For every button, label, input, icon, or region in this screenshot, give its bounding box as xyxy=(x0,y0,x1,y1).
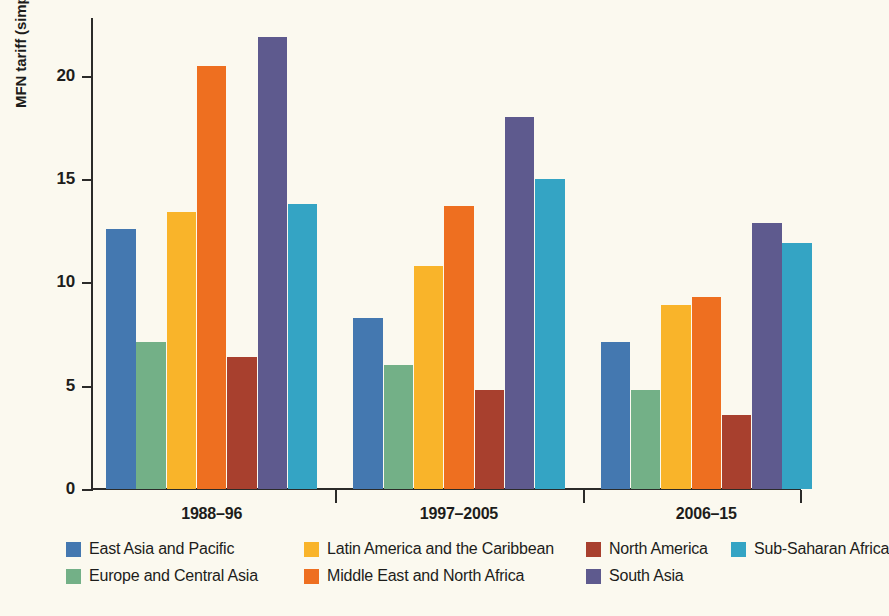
bar xyxy=(444,206,474,489)
x-axis-end-tick xyxy=(800,490,802,503)
legend-label: East Asia and Pacific xyxy=(89,541,234,557)
y-axis-tick: 15 xyxy=(82,179,93,181)
legend-item[interactable]: Latin America and the Caribbean xyxy=(304,541,554,557)
bar xyxy=(475,390,505,489)
bar xyxy=(505,117,535,489)
chart-legend: East Asia and PacificEurope and Central … xyxy=(66,541,811,599)
legend-label: Latin America and the Caribbean xyxy=(327,541,554,557)
legend-item[interactable]: North America xyxy=(586,541,708,557)
plot-area: 05101520 xyxy=(93,18,800,489)
y-axis-tick-label: 0 xyxy=(66,479,75,499)
bar xyxy=(601,342,631,489)
bars-layer xyxy=(93,18,800,489)
bar xyxy=(782,243,812,489)
bar xyxy=(535,179,565,489)
legend-label: South Asia xyxy=(609,568,684,584)
legend-item[interactable]: East Asia and Pacific xyxy=(66,541,234,557)
legend-label: Europe and Central Asia xyxy=(89,568,258,584)
legend-item[interactable]: South Asia xyxy=(586,568,684,584)
legend-swatch-icon xyxy=(304,542,319,557)
x-axis-separator-tick xyxy=(583,490,585,503)
bar xyxy=(692,297,722,489)
y-axis-tick-label: 5 xyxy=(66,376,75,396)
legend-item[interactable]: Middle East and North Africa xyxy=(304,568,524,584)
legend-swatch-icon xyxy=(586,569,601,584)
bar xyxy=(197,66,227,489)
legend-item[interactable]: Europe and Central Asia xyxy=(66,568,258,584)
bar xyxy=(227,357,257,489)
bar xyxy=(722,415,752,489)
y-axis-tick-label: 15 xyxy=(56,169,75,189)
bar xyxy=(106,229,136,489)
legend-swatch-icon xyxy=(731,542,746,557)
x-axis-group-label: 1997–2005 xyxy=(379,505,539,523)
bar xyxy=(631,390,661,489)
bar xyxy=(136,342,166,489)
y-axis-label: MFN tariff (simple average) xyxy=(12,0,29,138)
bar xyxy=(414,266,444,489)
bar xyxy=(661,305,691,489)
legend-item[interactable]: Sub-Saharan Africa xyxy=(731,541,889,557)
legend-label: Middle East and North Africa xyxy=(327,568,524,584)
legend-label: Sub-Saharan Africa xyxy=(754,541,889,557)
legend-swatch-icon xyxy=(66,542,81,557)
legend-swatch-icon xyxy=(66,569,81,584)
bar xyxy=(258,37,288,489)
x-axis-group-label: 2006–15 xyxy=(626,505,786,523)
legend-swatch-icon xyxy=(304,569,319,584)
y-axis-tick-label: 20 xyxy=(56,66,75,86)
bar xyxy=(288,204,318,489)
y-axis-tick-label: 10 xyxy=(56,272,75,292)
y-axis-tick: 10 xyxy=(82,282,93,284)
bar xyxy=(353,318,383,489)
x-axis-group-label: 1988–96 xyxy=(132,505,292,523)
bar xyxy=(384,365,414,489)
y-axis-label-container: MFN tariff (simple average) xyxy=(14,18,34,489)
bar xyxy=(167,212,197,489)
x-axis-separator-tick xyxy=(335,490,337,503)
y-axis-tick: 0 xyxy=(82,489,93,491)
y-axis-tick: 20 xyxy=(82,76,93,78)
legend-label: North America xyxy=(609,541,708,557)
bar xyxy=(752,223,782,489)
y-axis-tick: 5 xyxy=(82,386,93,388)
legend-swatch-icon xyxy=(586,542,601,557)
